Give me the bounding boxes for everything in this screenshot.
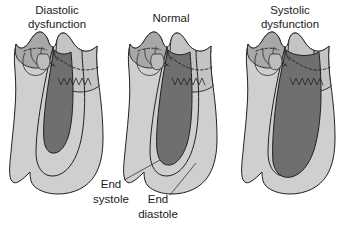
panel-title-normal: Normal bbox=[152, 12, 189, 24]
panel-systolic-dysfunction: Systolic dysfunction bbox=[242, 4, 335, 194]
heart-illustration: Diastolic dysfunction Normal Systolic dy… bbox=[0, 0, 342, 225]
panel-title-diastolic-line2: dysfunction bbox=[28, 18, 86, 30]
panel-title-systolic-line1: Systolic bbox=[270, 4, 310, 16]
end-systole-label-line2: systole bbox=[93, 193, 129, 205]
panel-normal: Normal bbox=[124, 12, 217, 194]
figure-canvas: Diastolic dysfunction Normal Systolic dy… bbox=[0, 0, 342, 225]
panel-diastolic-dysfunction: Diastolic dysfunction bbox=[10, 4, 103, 194]
panel-title-systolic-line2: dysfunction bbox=[261, 18, 319, 30]
end-systole-label-line1: End bbox=[101, 178, 121, 190]
end-diastole-label-line2: diastole bbox=[138, 208, 178, 220]
end-diastole-label-line1: End bbox=[148, 193, 168, 205]
panel-title-diastolic-line1: Diastolic bbox=[35, 4, 79, 16]
